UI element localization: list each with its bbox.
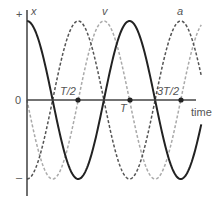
marker-period xyxy=(127,97,132,102)
y-tick-zero: 0 xyxy=(15,94,21,106)
y-tick-plus: + xyxy=(16,8,22,20)
y-tick-minus: – xyxy=(16,171,23,183)
shm-graph: + 0 – x v a T/2 T 3T/2 time xyxy=(0,0,218,204)
x-tick-full: T xyxy=(120,102,128,114)
x-axis-label: time xyxy=(191,106,212,118)
x-tick-half: T/2 xyxy=(60,85,76,97)
marker-three-half-period xyxy=(178,97,183,102)
marker-half-period xyxy=(75,97,80,102)
series-label-v: v xyxy=(102,5,109,17)
x-tick-threehalf: 3T/2 xyxy=(157,85,179,97)
series-label-a: a xyxy=(177,5,183,17)
series-label-x: x xyxy=(30,5,37,17)
